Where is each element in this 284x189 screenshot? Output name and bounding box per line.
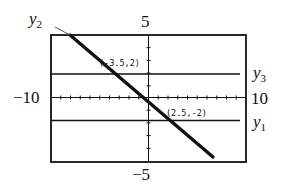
legend-y1-name: y	[253, 112, 261, 131]
y2-leader-line	[55, 27, 70, 35]
y-min-label: −5	[132, 166, 150, 183]
legend-y1-sub: 1	[261, 121, 267, 133]
point-label-upper: (-3.5,2)	[99, 58, 140, 68]
legend-y2: y2	[29, 10, 42, 33]
x-min-label: −10	[13, 89, 40, 106]
legend-y3: y3	[253, 64, 266, 87]
legend-y2-name: y	[29, 9, 37, 28]
x-max-label: 10	[251, 90, 268, 107]
point-label-lower: (2.5,-2)	[166, 108, 207, 118]
y-max-label: 5	[141, 13, 150, 30]
legend-y2-sub: 2	[37, 18, 43, 30]
legend-y1: y1	[253, 113, 266, 136]
legend-y3-sub: 3	[261, 72, 267, 84]
series-y2-line	[70, 35, 213, 157]
legend-y3-name: y	[253, 63, 261, 82]
